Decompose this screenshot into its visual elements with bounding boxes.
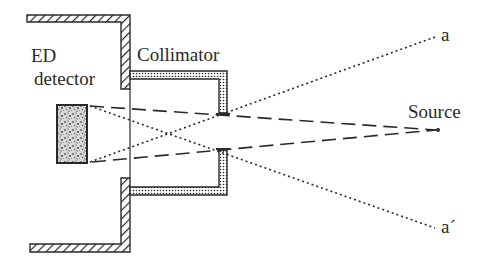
collimator — [130, 71, 230, 195]
ray-to-a-prime — [90, 106, 435, 228]
label-collimator: Collimator — [137, 44, 220, 65]
label-a-prime: a´ — [441, 216, 456, 237]
beam-upper-edge — [90, 106, 436, 130]
housing-wall-bottom — [30, 178, 130, 252]
collimator-upper-arm — [130, 71, 227, 113]
beam-lower-edge — [92, 130, 436, 162]
ed-detector-collimator-diagram: ED detector Collimator Source a a´ — [0, 0, 494, 266]
label-source: Source — [408, 101, 461, 122]
collimated-beam — [90, 106, 436, 162]
detector-crystal — [57, 105, 87, 163]
label-detector: detector — [34, 68, 96, 89]
acceptance-rays — [90, 37, 435, 228]
source-point — [436, 128, 440, 132]
label-ed: ED — [31, 45, 56, 66]
label-a: a — [441, 24, 450, 45]
